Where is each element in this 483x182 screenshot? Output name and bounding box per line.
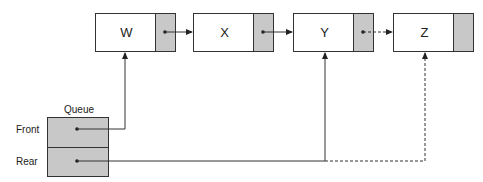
pointer-arrows: [0, 0, 483, 182]
